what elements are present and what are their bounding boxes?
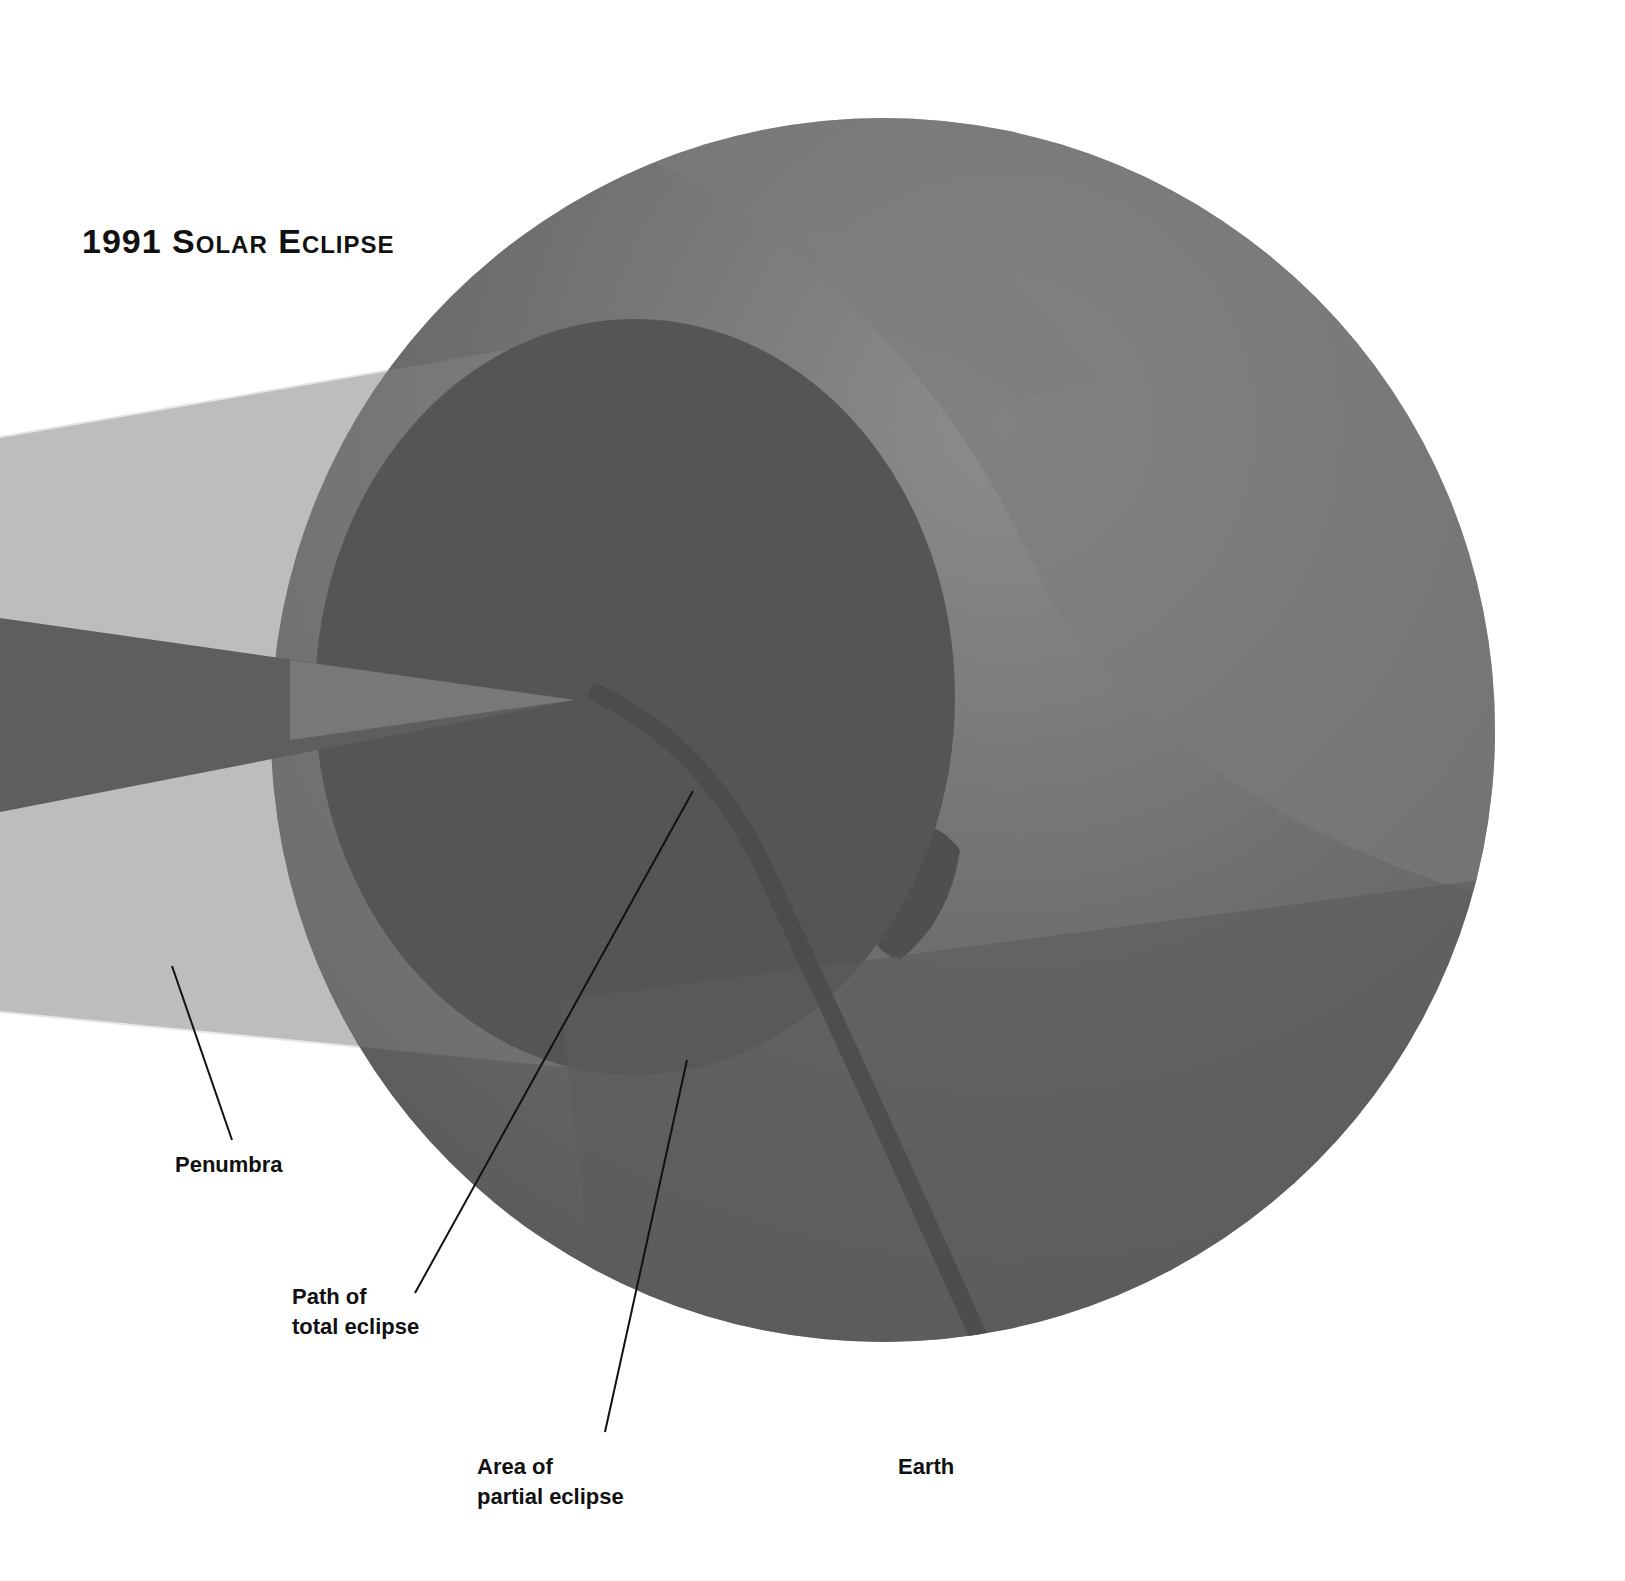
partial-line2: partial eclipse bbox=[477, 1482, 624, 1512]
penumbra-label: Penumbra bbox=[175, 1150, 283, 1180]
path-total-line2: total eclipse bbox=[292, 1312, 419, 1342]
earth-label-text: Earth bbox=[898, 1454, 954, 1479]
path-total-eclipse-label: Path of total eclipse bbox=[292, 1282, 419, 1342]
partial-eclipse-label: Area of partial eclipse bbox=[477, 1452, 624, 1512]
partial-line1: Area of bbox=[477, 1452, 624, 1482]
diagram-title: 1991 Solar Eclipse bbox=[82, 222, 395, 261]
penumbra-label-text: Penumbra bbox=[175, 1152, 283, 1177]
path-total-line1: Path of bbox=[292, 1282, 419, 1312]
earth-label: Earth bbox=[898, 1452, 954, 1482]
